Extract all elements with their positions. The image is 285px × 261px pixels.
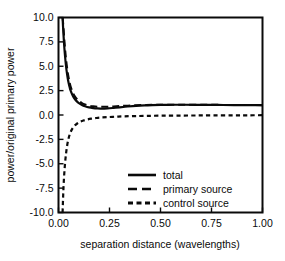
y-tick-label: 2.5 <box>39 84 54 96</box>
x-axis-title: separation distance (wavelengths) <box>80 238 239 250</box>
x-tick-label: 0.75 <box>201 217 222 229</box>
legend-label-total: total <box>163 169 183 181</box>
y-tick-label: 0.0 <box>39 109 54 121</box>
chart-figure: -10.0-7.5-5.0-2.50.02.55.07.510.0 0.000.… <box>0 0 285 261</box>
x-tick-label: 0.50 <box>150 217 171 229</box>
x-tick-label: 1.00 <box>252 217 273 229</box>
legend-label-primary-source: primary source <box>163 183 233 195</box>
y-tick-label: -5.0 <box>35 157 53 169</box>
y-tick-label: 5.0 <box>39 60 54 72</box>
x-tick-label: 0.25 <box>99 217 120 229</box>
chart-svg: -10.0-7.5-5.0-2.50.02.55.07.510.0 0.000.… <box>0 0 285 261</box>
y-tick-label: 7.5 <box>39 35 54 47</box>
y-tick-label: 10.0 <box>33 11 54 23</box>
x-tick-label: 0.00 <box>48 217 69 229</box>
y-tick-label: -2.5 <box>35 133 53 145</box>
legend-label-control-source: control source <box>163 197 229 209</box>
y-axis-title: power/original primary power <box>4 47 16 182</box>
y-tick-label: -7.5 <box>35 182 53 194</box>
